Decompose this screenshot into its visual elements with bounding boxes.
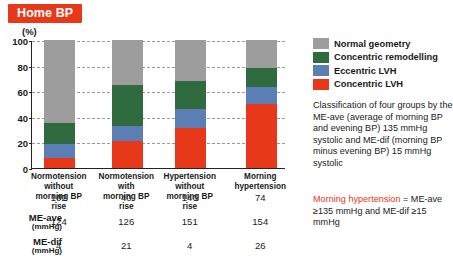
- x-axis-category-label-line: Normotension: [97, 172, 156, 182]
- table-cell: 102: [31, 192, 86, 203]
- x-axis-category-label-line: Morning: [231, 172, 290, 182]
- y-axis-tick-label: 40: [17, 112, 28, 123]
- bar-segment[interactable]: [246, 87, 277, 104]
- y-axis-tick-mark: [29, 143, 33, 144]
- morning-hypertension-note: Morning hypertension = ME-ave ≥135 mmHg …: [313, 194, 453, 229]
- y-axis-tick-mark: [29, 67, 33, 68]
- legend-item-label: Concentric LVH: [334, 79, 403, 89]
- color-swatch: [313, 38, 329, 49]
- x-axis-category-label-line: Normotension: [29, 172, 88, 182]
- y-axis-tick-mark: [29, 92, 33, 93]
- table-cell: 126: [99, 216, 154, 227]
- table-cell: 74: [233, 192, 288, 203]
- bar-segment[interactable]: [175, 128, 206, 168]
- page-title: Home BP: [8, 4, 82, 23]
- bar-segment[interactable]: [175, 109, 206, 128]
- y-axis-tick-label: 0: [23, 164, 28, 175]
- bar-segment[interactable]: [246, 104, 277, 168]
- table-cell: 40: [99, 192, 154, 203]
- legend-item[interactable]: Normal geometry: [313, 38, 453, 49]
- color-swatch: [313, 65, 329, 76]
- bar-segment[interactable]: [44, 144, 75, 158]
- bar-segment[interactable]: [44, 123, 75, 143]
- morning-hypertension-note-heading: Morning hypertension: [313, 194, 400, 204]
- legend-item[interactable]: Eccentric LVH: [313, 65, 453, 76]
- bar-segment[interactable]: [246, 68, 277, 87]
- bar-segment[interactable]: [44, 158, 75, 168]
- y-axis-tick-label: 100: [12, 36, 28, 47]
- bar-stack[interactable]: [175, 40, 206, 168]
- color-swatch: [313, 52, 329, 63]
- table-cell: 21: [99, 240, 154, 251]
- bar-stack[interactable]: [246, 40, 277, 168]
- table-cell: 4: [31, 240, 86, 251]
- legend-item[interactable]: Concentric remodelling: [313, 52, 453, 63]
- table-cell: 4: [162, 240, 217, 251]
- bar-segment[interactable]: [44, 40, 75, 123]
- bar-segment[interactable]: [112, 40, 143, 85]
- plot-area: 020406080100: [31, 41, 285, 169]
- data-table: n1024014074ME-ave(mmHg)124126151154ME-di…: [0, 186, 300, 260]
- color-swatch: [313, 79, 329, 90]
- bar-segment[interactable]: [112, 126, 143, 141]
- bar-segment[interactable]: [112, 85, 143, 126]
- bar-stack[interactable]: [44, 40, 75, 168]
- legend-item-label: Eccentric LVH: [334, 66, 396, 76]
- table-cell: 124: [31, 216, 86, 227]
- x-axis-category-label-line: Hypertension: [160, 172, 219, 182]
- y-axis-tick-mark: [29, 118, 33, 119]
- chart-legend: Normal geometryConcentric remodellingEcc…: [313, 38, 453, 92]
- stacked-bar-chart: (%) 020406080100 Normotensionwithoutmorn…: [0, 26, 300, 186]
- table-cell: 140: [162, 192, 217, 203]
- table-cell: 26: [233, 240, 288, 251]
- legend-item-label: Concentric remodelling: [334, 52, 438, 62]
- table-cell: 154: [233, 216, 288, 227]
- y-axis-tick-mark: [29, 41, 33, 42]
- y-axis-tick-mark: [29, 169, 33, 170]
- bar-segment[interactable]: [175, 81, 206, 109]
- y-axis-tick-label: 80: [17, 61, 28, 72]
- table-cell: 151: [162, 216, 217, 227]
- bar-stack[interactable]: [112, 40, 143, 168]
- classification-note: Classification of four groups by the ME-…: [313, 100, 453, 169]
- y-axis-tick-label: 60: [17, 87, 28, 98]
- bar-segment[interactable]: [246, 40, 277, 68]
- y-axis-tick-label: 20: [17, 138, 28, 149]
- bar-segment[interactable]: [112, 141, 143, 168]
- legend-item-label: Normal geometry: [334, 39, 410, 49]
- bar-segment[interactable]: [175, 40, 206, 81]
- legend-item[interactable]: Concentric LVH: [313, 79, 453, 90]
